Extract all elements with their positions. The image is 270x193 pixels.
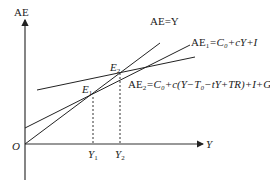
point-e1-label: E1 (81, 83, 93, 97)
label-ae1: AE1=C₀+cY+I (191, 36, 259, 50)
origin-label: O (12, 140, 20, 152)
tick-y2: Y2 (115, 148, 125, 162)
ae-diagram: AE Y O AE=Y AE1=C₀+cY+I AE2=C₀+c(Y−T₀−tY… (0, 0, 270, 193)
y-axis-label: AE (14, 6, 29, 18)
x-axis-label: Y (206, 138, 214, 150)
label-ae2: AE2=C₀+c(Y−T₀−tY+TR)+I+G (128, 78, 270, 92)
tick-y1: Y1 (88, 148, 98, 162)
label-ae-eq-y: AE=Y (150, 15, 179, 27)
point-e2-label: E2 (109, 61, 121, 75)
